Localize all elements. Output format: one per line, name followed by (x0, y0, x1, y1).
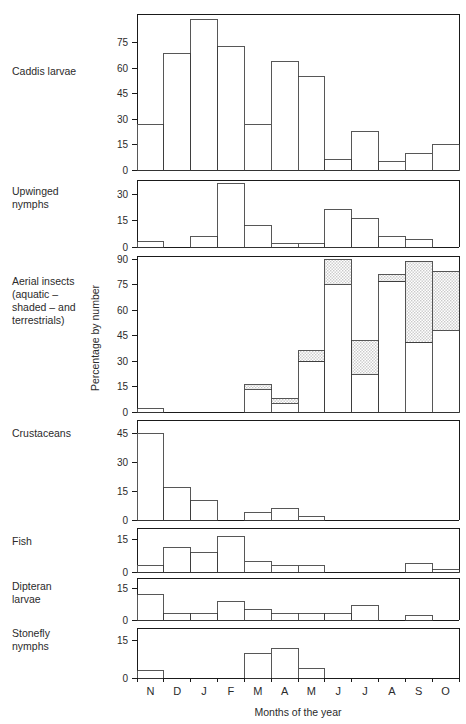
bar-dipteran-larvae-F (218, 601, 245, 620)
bar-aerial-insects-N (137, 409, 164, 412)
bar-fish-O (432, 570, 459, 572)
bar-caddis-larvae-D (164, 53, 191, 170)
bar-stonefly-nymphs-N (137, 671, 164, 679)
bar-dipteran-larvae-M (298, 614, 325, 620)
y-tick-label: 45 (117, 330, 129, 341)
bar-dipteran-larvae-N (137, 595, 164, 620)
panel-crustaceans: 0153045Crustaceans (12, 420, 459, 526)
bar-upwinged-nymphs-J (325, 210, 352, 247)
bar-aerial-insects-A-shaded (271, 398, 298, 403)
bar-fish-S (405, 563, 432, 572)
y-tick-label: 45 (117, 428, 129, 439)
x-tick-label-S-10: S (415, 685, 422, 697)
bar-aerial-insects-M (244, 390, 271, 412)
y-tick-label: 15 (117, 215, 129, 226)
bar-fish-J (191, 552, 218, 572)
panel-fish: 015Fish (12, 528, 459, 578)
bar-dipteran-larvae-J (191, 614, 218, 620)
x-tick-label-O-11: O (441, 685, 450, 697)
panels-group: 01530456075Caddis larvae01530Upwingednym… (12, 14, 459, 684)
x-tick-label-J-2: J (201, 685, 207, 697)
panel-stonefly-nymphs: 015Stoneflynymphs (12, 627, 459, 684)
multi-panel-bar-chart: 01530456075Caddis larvae01530Upwingednym… (0, 0, 466, 724)
bar-upwinged-nymphs-M (298, 243, 325, 247)
bar-crustaceans-D (164, 487, 191, 520)
panel-label-dipteran-larvae: Dipteranlarvae (12, 580, 52, 605)
panel-upwinged-nymphs: 01530Upwingednymphs (12, 180, 459, 253)
bar-upwinged-nymphs-A (379, 236, 406, 247)
bar-upwinged-nymphs-F (218, 184, 245, 247)
bar-fish-M (298, 565, 325, 572)
bar-fish-N (137, 565, 164, 572)
bar-caddis-larvae-J (325, 160, 352, 170)
y-tick-label: 60 (117, 305, 129, 316)
bar-upwinged-nymphs-S (405, 240, 432, 247)
y-tick-label: 60 (117, 63, 129, 74)
bar-stonefly-nymphs-M (298, 668, 325, 678)
y-tick-label: 15 (117, 583, 129, 594)
x-tick-label-A-5: A (281, 685, 289, 697)
bar-upwinged-nymphs-N (137, 242, 164, 247)
y-tick-label: 75 (117, 279, 129, 290)
y-tick-label: 0 (122, 515, 128, 526)
bar-caddis-larvae-J (191, 19, 218, 170)
y-tick-label: 0 (122, 673, 128, 684)
chart-canvas: 01530456075Caddis larvae01530Upwingednym… (0, 0, 466, 724)
bar-caddis-larvae-A (271, 61, 298, 170)
bar-dipteran-larvae-S (405, 616, 432, 620)
bar-aerial-insects-A-shaded (379, 275, 406, 282)
bar-crustaceans-M (298, 516, 325, 520)
bar-aerial-insects-A (271, 404, 298, 412)
bar-caddis-larvae-F (218, 46, 245, 170)
bar-dipteran-larvae-D (164, 614, 191, 620)
y-tick-label: 15 (117, 381, 129, 392)
y-tick-label: 0 (122, 242, 128, 253)
bar-upwinged-nymphs-J (352, 219, 379, 247)
x-tick-label-M-4: M (253, 685, 262, 697)
bar-fish-A (271, 565, 298, 572)
bar-dipteran-larvae-J (325, 614, 352, 620)
y-tick-label: 30 (117, 189, 129, 200)
y-tick-label: 0 (122, 567, 128, 578)
y-tick-label: 30 (117, 457, 129, 468)
bar-aerial-insects-M-shaded (244, 385, 271, 390)
panel-dipteran-larvae: 015Dipteranlarvae (12, 578, 459, 626)
x-tick-label-M-6: M (307, 685, 316, 697)
bar-caddis-larvae-O (432, 145, 459, 170)
panel-aerial-insects: 0153045607590Aerial insects(aquatic –sha… (12, 254, 459, 418)
x-tick-label-J-7: J (336, 685, 342, 697)
bar-caddis-larvae-J (352, 131, 379, 170)
panel-label-crustaceans: Crustaceans (12, 427, 71, 439)
y-tick-label: 30 (117, 114, 129, 125)
bar-crustaceans-M (244, 512, 271, 520)
y-tick-label: 15 (117, 139, 129, 150)
bar-upwinged-nymphs-A (271, 243, 298, 247)
bar-aerial-insects-J (325, 285, 352, 412)
bar-aerial-insects-J (352, 375, 379, 412)
y-axis-title: Percentage by number (89, 284, 101, 391)
bar-caddis-larvae-A (379, 162, 406, 170)
x-axis-group: NDJFMAMJJASO (137, 678, 459, 697)
bar-dipteran-larvae-M (244, 610, 271, 621)
bar-aerial-insects-J-shaded (352, 341, 379, 375)
y-tick-label: 45 (117, 88, 129, 99)
bar-fish-F (218, 537, 245, 572)
y-tick-label: 90 (117, 254, 129, 265)
bar-aerial-insects-A (379, 281, 406, 412)
y-tick-label: 30 (117, 356, 129, 367)
x-tick-label-F-3: F (228, 685, 235, 697)
bar-dipteran-larvae-A (271, 614, 298, 620)
panel-label-stonefly-nymphs: Stoneflynymphs (12, 627, 51, 652)
bar-stonefly-nymphs-A (271, 648, 298, 678)
y-tick-label: 15 (117, 635, 129, 646)
bar-aerial-insects-S-shaded (405, 261, 432, 342)
y-tick-label: 15 (117, 534, 129, 545)
x-axis-title: Months of the year (255, 706, 342, 718)
bar-aerial-insects-O (432, 331, 459, 412)
bar-aerial-insects-J-shaded (325, 259, 352, 284)
bar-upwinged-nymphs-M (244, 226, 271, 247)
panel-label-upwinged-nymphs: Upwingednymphs (12, 185, 59, 210)
y-tick-label: 0 (122, 615, 128, 626)
bar-crustaceans-J (191, 501, 218, 520)
panel-label-fish: Fish (12, 535, 32, 547)
